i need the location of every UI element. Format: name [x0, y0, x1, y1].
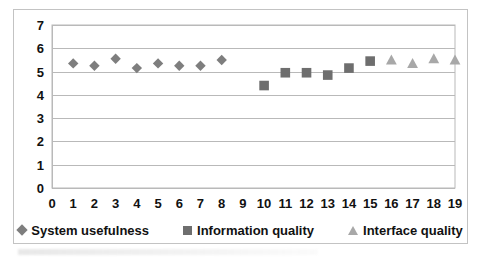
- legend-entry-3: Interface quality: [348, 223, 463, 238]
- data-point-square: [259, 81, 269, 91]
- x-tick-label-1: 1: [63, 197, 83, 210]
- data-point-square: [302, 68, 312, 78]
- y-tick-label-0: 0: [28, 182, 44, 195]
- x-tick-label-4: 4: [127, 197, 147, 210]
- x-tick-label-9: 9: [233, 197, 253, 210]
- x-tick-label-5: 5: [148, 197, 168, 210]
- x-tick-label-17: 17: [403, 197, 423, 210]
- x-tick-label-2: 2: [84, 197, 104, 210]
- y-tick-label-1: 1: [28, 159, 44, 172]
- legend-label: Interface quality: [363, 223, 463, 238]
- x-tick-label-3: 3: [106, 197, 126, 210]
- y-tick-label-3: 3: [28, 112, 44, 125]
- chart-frame: 01234567 012345678910111213141516171819: [13, 9, 468, 244]
- plot-background: [52, 25, 455, 188]
- data-point-square: [344, 63, 354, 73]
- y-tick-label-6: 6: [28, 42, 44, 55]
- x-tick-label-12: 12: [297, 197, 317, 210]
- legend-entry-1: System usefulness: [18, 223, 149, 238]
- x-tick-label-10: 10: [254, 197, 274, 210]
- x-tick-label-19: 19: [445, 197, 465, 210]
- x-tick-label-7: 7: [190, 197, 210, 210]
- x-tick-label-13: 13: [318, 197, 338, 210]
- x-tick-label-0: 0: [42, 197, 62, 210]
- legend-entry-2: Information quality: [183, 223, 314, 238]
- x-tick-label-14: 14: [339, 197, 359, 210]
- x-tick-label-11: 11: [275, 197, 295, 210]
- data-point-square: [281, 68, 291, 78]
- y-tick-label-7: 7: [28, 19, 44, 32]
- data-point-square: [365, 56, 375, 66]
- x-tick-label-6: 6: [169, 197, 189, 210]
- square-marker: [183, 226, 192, 235]
- y-tick-label-2: 2: [28, 135, 44, 148]
- y-tick-label-5: 5: [28, 66, 44, 79]
- page-shadow-artifact: [18, 249, 318, 255]
- x-tick-label-8: 8: [212, 197, 232, 210]
- x-tick-label-16: 16: [381, 197, 401, 210]
- diamond-marker: [17, 224, 28, 235]
- chart-figure: 01234567 012345678910111213141516171819 …: [0, 0, 486, 266]
- x-tick-label-18: 18: [424, 197, 444, 210]
- data-point-square: [323, 70, 333, 80]
- legend-label: Information quality: [197, 223, 314, 238]
- triangle-marker: [348, 226, 358, 235]
- legend-label: System usefulness: [31, 223, 149, 238]
- y-tick-label-4: 4: [28, 89, 44, 102]
- chart-legend: System usefulnessInformation qualityInte…: [13, 218, 468, 242]
- x-tick-label-15: 15: [360, 197, 380, 210]
